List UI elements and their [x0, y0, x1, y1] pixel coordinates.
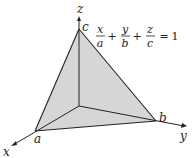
eq-den-c: c: [147, 37, 153, 50]
eq-den-b: b: [121, 37, 128, 50]
eq-plus-1: +: [107, 30, 116, 43]
y-axis-label: y: [179, 129, 187, 143]
c-intercept-label: c: [82, 20, 89, 34]
eq-plus-2: +: [132, 30, 141, 43]
eq-rhs: 1: [172, 30, 179, 43]
z-arrow-icon: [77, 16, 81, 21]
a-intercept-label: a: [34, 132, 41, 146]
eq-den-a: a: [97, 37, 104, 50]
eq-num-x: x: [97, 23, 104, 36]
eq-equals: =: [159, 30, 168, 43]
eq-num-y: y: [121, 23, 129, 36]
eq-num-z: z: [146, 23, 153, 36]
x-axis-label: x: [3, 145, 10, 158]
plane-face: [35, 29, 156, 131]
z-axis-label: z: [76, 2, 84, 16]
plane-equation: x a + y b + z c = 1: [96, 23, 179, 50]
y-arrow-icon: [181, 123, 187, 128]
x-arrow-icon: [11, 141, 17, 146]
b-intercept-label: b: [159, 111, 167, 125]
plane-diagram: z x y c a b x a + y b + z c = 1: [0, 0, 194, 158]
